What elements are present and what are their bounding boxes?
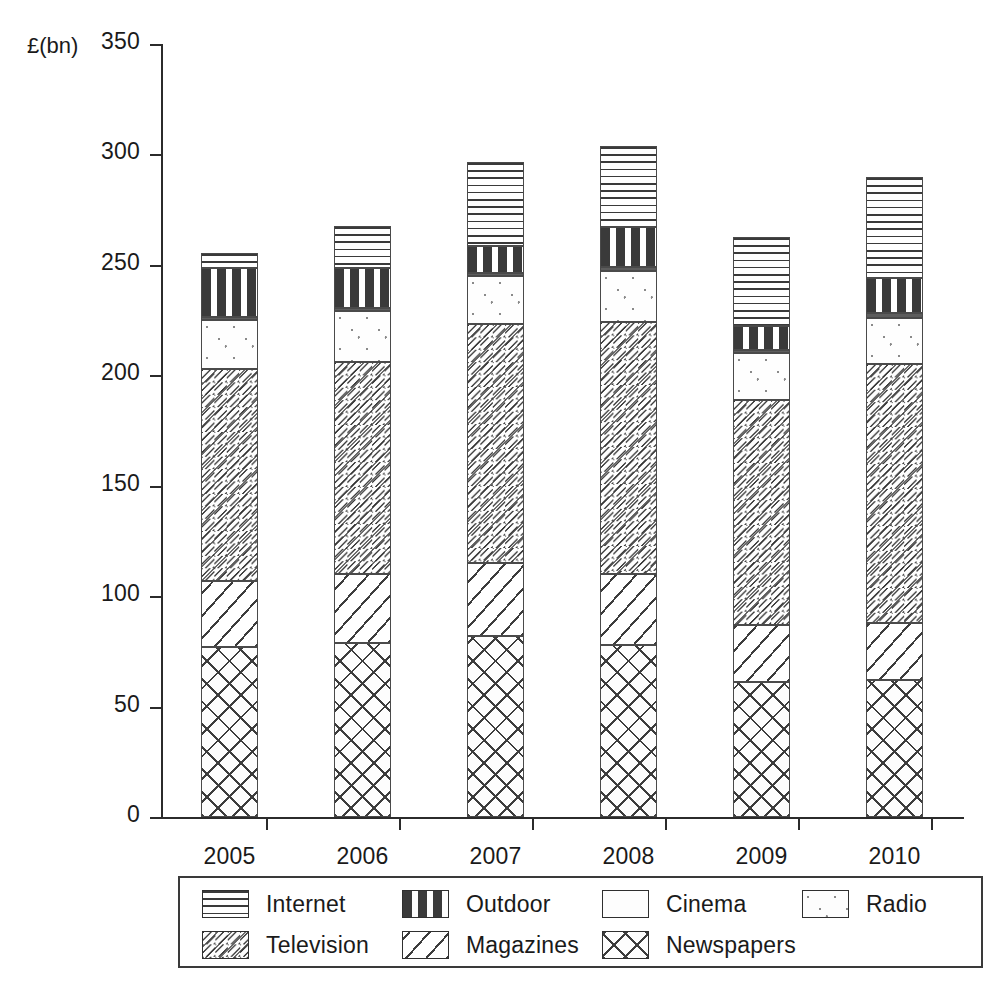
bar-segment-outdoor[interactable] <box>334 268 391 308</box>
bar-segment-television[interactable] <box>733 400 790 625</box>
legend-label: Newspapers <box>666 932 796 959</box>
bar-segment-newspapers[interactable] <box>866 680 923 817</box>
bar-segment-radio[interactable] <box>866 318 923 364</box>
bar-segment-outdoor[interactable] <box>733 326 790 350</box>
y-axis-tick <box>150 707 161 709</box>
bar-2010[interactable] <box>866 177 923 817</box>
bar-2009[interactable] <box>733 237 790 817</box>
bar-segment-internet[interactable] <box>467 162 524 246</box>
legend-swatch-outdoor-icon <box>402 890 449 918</box>
bar-segment-radio[interactable] <box>733 353 790 399</box>
x-axis-tick-label: 2005 <box>170 843 290 870</box>
legend-entry-radio[interactable]: Radio <box>802 890 927 918</box>
y-axis-tick <box>150 154 161 156</box>
y-axis-tick <box>150 44 161 46</box>
bar-2007[interactable] <box>467 162 524 817</box>
x-axis-tick <box>798 819 800 830</box>
legend-entry-internet[interactable]: Internet <box>202 890 346 918</box>
x-axis-tick-label: 2010 <box>835 843 955 870</box>
y-axis-tick-label: 100 <box>36 580 140 607</box>
bar-segment-outdoor[interactable] <box>467 246 524 273</box>
bar-segment-radio[interactable] <box>600 271 657 322</box>
y-axis-tick <box>150 375 161 377</box>
bar-segment-outdoor[interactable] <box>600 227 657 267</box>
bar-segment-newspapers[interactable] <box>600 645 657 817</box>
bar-segment-internet[interactable] <box>866 177 923 279</box>
bar-segment-cinema[interactable] <box>733 350 790 353</box>
bar-segment-newspapers[interactable] <box>467 636 524 817</box>
bar-segment-internet[interactable] <box>733 237 790 325</box>
legend-swatch-newspapers-icon <box>602 931 649 959</box>
x-axis-tick-label: 2008 <box>569 843 689 870</box>
bar-segment-magazines[interactable] <box>866 623 923 680</box>
y-axis-tick-label: 200 <box>36 359 140 386</box>
y-axis-tick-label: 150 <box>36 470 140 497</box>
x-axis-tick <box>532 819 534 830</box>
bar-segment-magazines[interactable] <box>467 563 524 636</box>
bar-segment-television[interactable] <box>866 364 923 622</box>
y-axis-tick-label: 50 <box>36 691 140 718</box>
bar-segment-television[interactable] <box>600 322 657 574</box>
legend-entry-outdoor[interactable]: Outdoor <box>402 890 551 918</box>
bar-segment-television[interactable] <box>201 369 258 581</box>
bar-segment-cinema[interactable] <box>201 317 258 320</box>
bar-2008[interactable] <box>600 146 657 817</box>
stacked-bar-chart: £(bn) 0501001502002503003502005200620072… <box>0 0 986 995</box>
y-axis-tick-label: 250 <box>36 249 140 276</box>
legend-entry-magazines[interactable]: Magazines <box>402 931 579 959</box>
x-axis-tick <box>266 819 268 830</box>
bar-segment-cinema[interactable] <box>600 267 657 271</box>
legend-swatch-cinema-icon <box>602 890 649 918</box>
bar-2006[interactable] <box>334 226 391 817</box>
y-axis-tick <box>150 265 161 267</box>
bar-segment-cinema[interactable] <box>334 308 391 311</box>
bar-segment-internet[interactable] <box>201 253 258 268</box>
x-axis-tick <box>931 819 933 830</box>
y-axis-tick-label: 0 <box>36 801 140 828</box>
bar-segment-magazines[interactable] <box>600 574 657 645</box>
bar-segment-cinema[interactable] <box>866 313 923 317</box>
legend-label: Internet <box>266 891 346 918</box>
y-axis-tick <box>150 596 161 598</box>
legend-label: Magazines <box>466 932 579 959</box>
bar-segment-newspapers[interactable] <box>733 682 790 817</box>
y-axis-tick-label: 350 <box>36 28 140 55</box>
bar-segment-radio[interactable] <box>201 320 258 369</box>
bar-segment-outdoor[interactable] <box>866 278 923 313</box>
legend-entry-newspapers[interactable]: Newspapers <box>602 931 796 959</box>
x-axis-tick <box>399 819 401 830</box>
bar-segment-radio[interactable] <box>467 276 524 325</box>
x-axis-tick-label: 2006 <box>303 843 423 870</box>
bar-segment-magazines[interactable] <box>733 625 790 682</box>
legend-swatch-magazines-icon <box>402 931 449 959</box>
chart-legend: InternetOutdoorCinemaRadioTelevisionMaga… <box>178 876 983 968</box>
bar-segment-cinema[interactable] <box>467 273 524 276</box>
y-axis-tick <box>150 817 161 819</box>
legend-label: Radio <box>866 891 927 918</box>
y-axis-tick-label: 300 <box>36 138 140 165</box>
bar-segment-internet[interactable] <box>600 146 657 228</box>
legend-label: Television <box>266 932 369 959</box>
bar-segment-television[interactable] <box>467 324 524 563</box>
bar-segment-newspapers[interactable] <box>201 647 258 817</box>
bar-segment-television[interactable] <box>334 362 391 574</box>
bar-segment-newspapers[interactable] <box>334 643 391 817</box>
bar-segment-magazines[interactable] <box>334 574 391 642</box>
legend-label: Outdoor <box>466 891 551 918</box>
x-axis-tick <box>665 819 667 830</box>
legend-entry-cinema[interactable]: Cinema <box>602 890 746 918</box>
x-axis-tick-label: 2007 <box>436 843 556 870</box>
y-axis-line <box>161 44 163 819</box>
y-axis-tick <box>150 486 161 488</box>
legend-swatch-television-icon <box>202 931 249 959</box>
bar-segment-internet[interactable] <box>334 226 391 268</box>
legend-swatch-internet-icon <box>202 890 249 918</box>
x-axis-line <box>161 817 964 819</box>
bar-2005[interactable] <box>201 253 258 817</box>
legend-swatch-radio-icon <box>802 890 849 918</box>
legend-entry-television[interactable]: Television <box>202 931 369 959</box>
bar-segment-magazines[interactable] <box>201 581 258 647</box>
legend-label: Cinema <box>666 891 746 918</box>
bar-segment-outdoor[interactable] <box>201 268 258 317</box>
bar-segment-radio[interactable] <box>334 311 391 362</box>
